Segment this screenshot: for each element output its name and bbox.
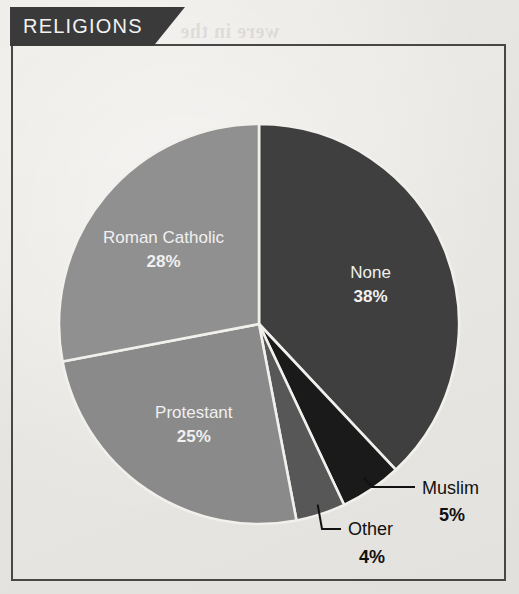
- page-background: Christianity also was a major were in th…: [0, 0, 519, 594]
- pie-slice-group: [59, 124, 459, 524]
- section-title: RELIGIONS: [10, 15, 143, 38]
- pie-value-none: 38%: [354, 287, 388, 306]
- pie-label-muslim: Muslim: [422, 478, 479, 498]
- pie-label-other: Other: [348, 519, 393, 539]
- pie-label-protestant: Protestant: [155, 403, 233, 422]
- pie-value-protestant: 25%: [177, 427, 211, 446]
- pie-value-muslim: 5%: [439, 505, 465, 525]
- pie-value-other: 4%: [359, 547, 385, 567]
- religions-pie-chart: None38%Protestant25%Roman Catholic28% Mu…: [0, 0, 519, 594]
- pie-label-none: None: [350, 263, 391, 282]
- pie-value-roman-catholic: 28%: [146, 252, 180, 271]
- pie-label-roman-catholic: Roman Catholic: [103, 228, 224, 247]
